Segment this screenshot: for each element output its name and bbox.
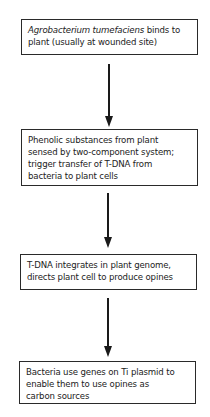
flow-step-2-line-2: sensed by two-component system; bbox=[28, 146, 191, 158]
text-span: binds to bbox=[144, 25, 180, 35]
flow-step-3-box: T-DNA integrates in plant genome, direct… bbox=[20, 254, 197, 290]
flow-step-2-line-1: Phenolic substances from plant bbox=[28, 134, 191, 146]
flow-step-1-line-1: Agrobacterium tumefaciens binds to bbox=[28, 24, 191, 36]
flow-step-3-line-2: directs plant cell to produce opines bbox=[27, 271, 190, 283]
organism-name: Agrobacterium tumefaciens bbox=[28, 25, 144, 35]
flow-step-2-line-4: bacteria to plant cells bbox=[28, 170, 191, 182]
text-span: plant (usually at wounded site) bbox=[28, 37, 157, 47]
flow-step-1-line-2: plant (usually at wounded site) bbox=[28, 36, 191, 48]
flow-step-2-line-3: trigger transfer of T-DNA from bbox=[28, 158, 191, 170]
flow-step-1-box: Agrobacterium tumefaciens binds to plant… bbox=[21, 19, 198, 55]
flow-step-4-line-1: Bacteria use genes on Ti plasmid to bbox=[26, 366, 189, 378]
flow-step-3-line-1: T-DNA integrates in plant genome, bbox=[27, 259, 190, 271]
flow-step-4-line-2: enable them to use opines as bbox=[26, 378, 189, 390]
flow-step-4-line-3: carbon sources bbox=[26, 390, 189, 402]
flow-step-2-box: Phenolic substances from plant sensed by… bbox=[21, 129, 198, 186]
flow-step-4-box: Bacteria use genes on Ti plasmid to enab… bbox=[19, 361, 196, 404]
